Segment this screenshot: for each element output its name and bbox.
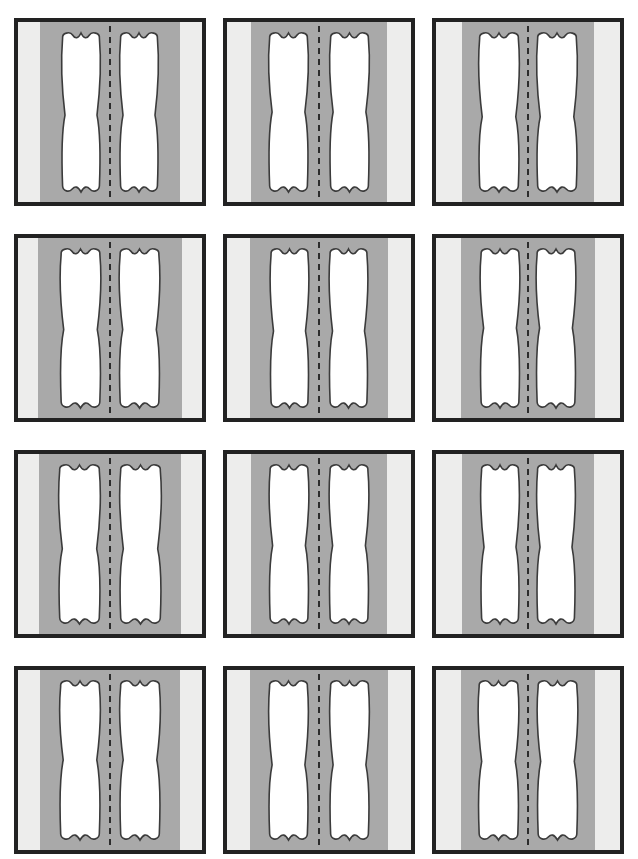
panel-canvas (436, 238, 620, 418)
lumen-shape-left (479, 33, 520, 192)
diagram-panel (14, 666, 206, 854)
diagram-panel (223, 450, 415, 638)
lumen-shape-left (480, 249, 520, 408)
lumen-shape-left (269, 465, 309, 624)
diagram-panel (432, 666, 624, 854)
diagram-panel (432, 450, 624, 638)
panel-canvas (18, 670, 202, 850)
diagram-panel (223, 18, 415, 206)
diagram-panel (432, 18, 624, 206)
lumen-shape-left (478, 681, 519, 840)
panel-canvas (436, 454, 620, 634)
panel-canvas (18, 22, 202, 202)
panel-canvas (18, 454, 202, 634)
lumen-shape-left (62, 33, 101, 192)
lumen-shape-left (269, 33, 309, 192)
diagram-panel (223, 666, 415, 854)
panel-canvas (436, 22, 620, 202)
lumen-shape-left (60, 249, 101, 408)
panel-canvas (227, 238, 411, 418)
lumen-shape-left (59, 465, 101, 624)
diagram-panel (14, 234, 206, 422)
lumen-shape-right (537, 33, 578, 192)
lumen-shape-right (120, 465, 162, 624)
diagram-panel (432, 234, 624, 422)
lumen-shape-right (537, 681, 578, 840)
lumen-shape-right (536, 249, 576, 408)
diagram-panel (14, 450, 206, 638)
lumen-shape-right (120, 681, 161, 840)
lumen-shape-left (269, 681, 309, 840)
panel-canvas (436, 670, 620, 850)
lumen-shape-left (60, 681, 101, 840)
diagram-panel (14, 18, 206, 206)
panel-canvas (18, 238, 202, 418)
panel-canvas (227, 454, 411, 634)
panel-canvas (227, 670, 411, 850)
lumen-shape-right (330, 33, 370, 192)
diagram-panel (223, 234, 415, 422)
panel-canvas (227, 22, 411, 202)
lumen-shape-right (330, 681, 370, 840)
lumen-shape-left (270, 249, 309, 408)
lumen-shape-right (329, 465, 369, 624)
lumen-shape-right (120, 33, 159, 192)
lumen-shape-right (119, 249, 160, 408)
diagram-panel-grid (0, 0, 638, 859)
lumen-shape-right (537, 465, 576, 624)
lumen-shape-left (481, 465, 520, 624)
lumen-shape-right (329, 249, 368, 408)
